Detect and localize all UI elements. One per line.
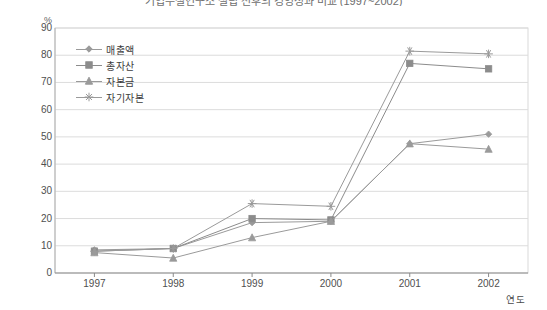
square-marker [76, 58, 102, 72]
x-axis-tick-label: 2001 [399, 278, 421, 289]
y-axis-tick-label: 40 [26, 159, 52, 169]
legend-marker [82, 42, 96, 56]
data-point-marker-square [485, 66, 491, 72]
chart-legend: 매출액총자산자본금자기자본 [76, 41, 172, 105]
y-axis-tick-label: 50 [26, 132, 52, 142]
legend-item[interactable]: 자본금 [76, 73, 172, 89]
line-chart: 기업부설연구소 설립 전후의 경영성과 비교 (1997~2002) % 908… [0, 0, 547, 310]
legend-marker [82, 58, 96, 72]
diamond-marker [76, 42, 102, 56]
x-axis-tick-label: 2002 [477, 278, 499, 289]
legend-item[interactable]: 매출액 [76, 41, 172, 57]
y-axis-tick-label: 10 [26, 241, 52, 251]
data-point-marker-square [407, 60, 413, 66]
x-axis-tick-label: 2000 [320, 278, 342, 289]
legend-marker [82, 90, 96, 104]
triangle-marker [76, 74, 102, 88]
y-axis-tick-label: 0 [26, 268, 52, 278]
y-axis-tick-label: 30 [26, 186, 52, 196]
legend-item-label: 자기자본 [102, 90, 144, 105]
x-axis-title: 연도 [506, 292, 526, 306]
x-axis-tick-label: 1999 [241, 278, 263, 289]
legend-item[interactable]: 총자산 [76, 57, 172, 73]
data-point-marker-square [249, 215, 255, 221]
star-marker [76, 90, 102, 104]
y-axis-tick-label: 80 [26, 50, 52, 60]
y-axis-tick-label: 20 [26, 214, 52, 224]
legend-item-label: 자본금 [102, 74, 135, 89]
legend-item-label: 매출액 [102, 42, 135, 57]
y-axis-tick-labels: 9080706050403020100 [0, 0, 52, 310]
legend-marker [82, 74, 96, 88]
x-axis-tick-label: 1997 [83, 278, 105, 289]
legend-item-label: 총자산 [102, 58, 135, 73]
legend-item[interactable]: 자기자본 [76, 89, 172, 105]
x-axis-tick-label: 1998 [162, 278, 184, 289]
y-axis-tick-label: 60 [26, 105, 52, 115]
chart-title: 기업부설연구소 설립 전후의 경영성과 비교 (1997~2002) [0, 0, 547, 6]
y-axis-tick-label: 90 [26, 23, 52, 33]
y-axis-tick-label: 70 [26, 77, 52, 87]
